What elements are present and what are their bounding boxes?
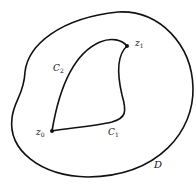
label-c1: C1: [108, 128, 119, 138]
point-z1-dot: [125, 44, 129, 48]
label-region-d: D: [154, 160, 162, 170]
label-c1-base: C: [108, 127, 115, 137]
label-z0-sub: 0: [41, 131, 45, 138]
label-z1-sub: 1: [140, 42, 144, 49]
curve-c2: [52, 39, 127, 131]
label-c2: C2: [53, 64, 64, 74]
label-c2-base: C: [53, 63, 60, 73]
label-c2-sub: 2: [60, 67, 64, 74]
label-z1: z1: [135, 39, 144, 49]
label-c1-sub: 1: [115, 131, 119, 138]
region-d-boundary: [12, 12, 193, 177]
label-z0: z0: [36, 128, 45, 138]
diagram-canvas: [0, 0, 196, 190]
point-z0-dot: [50, 129, 54, 133]
